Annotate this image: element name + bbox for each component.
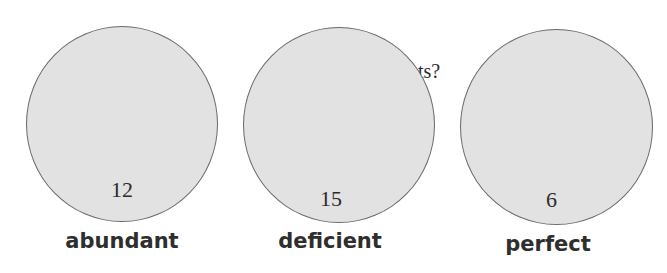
count-perfect: 6 <box>456 187 647 213</box>
circle-perfect: 6 <box>460 29 653 225</box>
label-abundant: abundant <box>22 229 222 253</box>
label-perfect: perfect <box>448 232 648 256</box>
label-deficient: deficient <box>230 229 430 253</box>
count-deficient: 15 <box>236 186 426 212</box>
count-abundant: 12 <box>27 177 217 203</box>
circle-abundant: 12 <box>26 26 218 222</box>
circle-deficient: 15 <box>243 27 435 223</box>
